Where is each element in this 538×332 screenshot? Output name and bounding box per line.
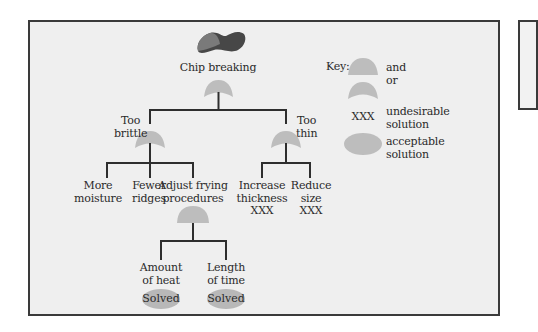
- branch-too-brittle-label: Too brittle: [114, 115, 147, 140]
- leaf-length-of-time: Length of time: [207, 262, 245, 287]
- key-title: Key:: [326, 61, 350, 74]
- leaf-more-moisture: More moisture: [74, 180, 122, 205]
- root-label: Chip breaking: [180, 62, 257, 75]
- key-xxx-symbol: XXX: [352, 111, 375, 124]
- solved-badge: Solved: [207, 289, 245, 309]
- key-ellipse-icon: [344, 133, 382, 155]
- key-and-gate-icon: [348, 58, 378, 75]
- undesirable-mark: XXX: [291, 205, 331, 218]
- solved-badge: Solved: [142, 289, 180, 309]
- key-or-gate-icon: [348, 82, 378, 99]
- and-gate-icon: [177, 206, 209, 223]
- node-adjust-frying: Adjust frying procedures: [158, 180, 228, 205]
- key-acceptable-label: acceptable solution: [386, 136, 444, 161]
- branch-too-thin-label: Too thin: [296, 115, 317, 140]
- undesirable-mark: XXX: [237, 205, 288, 218]
- potato-chip-icon: [198, 32, 246, 53]
- leaf-increase-thickness: Increase thickness XXX: [237, 180, 288, 218]
- leaf-amount-of-heat: Amount of heat: [140, 262, 182, 287]
- key-undesirable-label: undesirable solution: [386, 106, 450, 131]
- key-and-or-labels: and or: [386, 61, 406, 87]
- leaf-reduce-size: Reduce size XXX: [291, 180, 331, 218]
